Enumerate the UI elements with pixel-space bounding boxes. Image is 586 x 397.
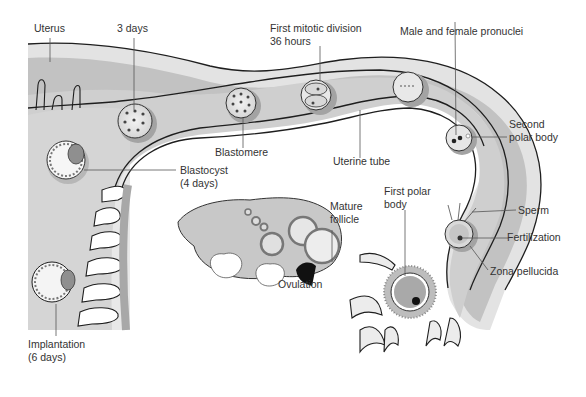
- label-mature-follicle: Mature follicle: [330, 200, 363, 226]
- label-sperm: Sperm: [518, 204, 549, 217]
- label-zona-pellucida: Zona pellucida: [490, 265, 558, 278]
- ovulated-oocyte: [384, 266, 436, 318]
- label-blastomere: Blastomere: [215, 146, 268, 159]
- label-fertilization: Fertilization: [507, 231, 561, 244]
- label-implantation: Implantation (6 days): [28, 338, 85, 364]
- label-second-polar-body: Second polar body: [509, 118, 558, 144]
- pronuclei-zygote: [446, 125, 477, 155]
- fertilization-diagram: Uterus 3 days First mitotic division 36 …: [0, 0, 586, 397]
- label-3-days: 3 days: [117, 22, 148, 35]
- ovary: [178, 198, 342, 286]
- label-male-female-pronuclei: Male and female pronuclei: [400, 25, 523, 38]
- label-first-polar-body: First polar body: [384, 185, 431, 211]
- diagram-artwork: [0, 0, 586, 397]
- label-first-mitotic-division: First mitotic division 36 hours: [270, 22, 362, 48]
- label-uterine-tube: Uterine tube: [333, 155, 390, 168]
- label-ovulation: Ovulation: [278, 278, 322, 291]
- label-uterus: Uterus: [34, 22, 65, 35]
- label-blastocyst: Blastocyst (4 days): [180, 164, 228, 190]
